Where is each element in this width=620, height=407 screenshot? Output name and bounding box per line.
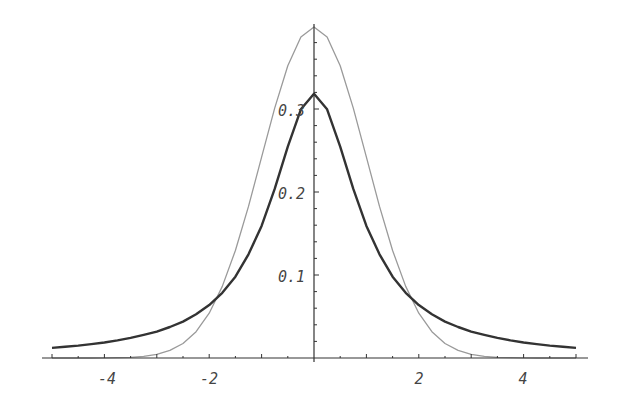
x-tick-label: -4	[98, 370, 116, 388]
axes	[42, 24, 588, 362]
plot-area: -4 -2 2 4 0.1 0.2 0.3	[0, 0, 620, 407]
x-tick-label: 2	[414, 370, 423, 388]
x-tick-label: -2	[200, 370, 218, 388]
y-tick-label: 0.3	[278, 102, 305, 120]
y-ticks	[314, 43, 319, 342]
x-tick-labels: -4 -2 2 4	[98, 370, 528, 388]
y-tick-label: 0.2	[278, 185, 305, 203]
y-tick-labels: 0.1 0.2 0.3	[278, 102, 305, 286]
y-tick-label: 0.1	[278, 268, 305, 286]
x-tick-label: 4	[518, 370, 527, 388]
